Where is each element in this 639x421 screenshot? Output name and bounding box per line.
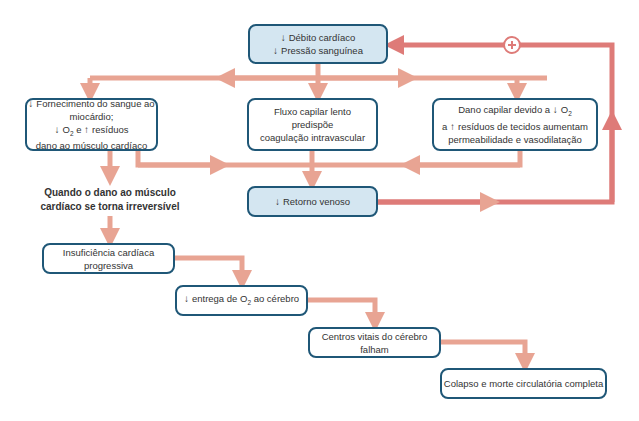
down-arrow-icon: ↓	[281, 32, 286, 43]
o2-subscript: 2	[70, 129, 74, 136]
note-line-2: cardíaco se torna irreversível	[40, 200, 180, 214]
cardiac-output-label: Débito cardíaco	[289, 32, 356, 43]
heart-failure-label: Insuficiência cardíaca progressiva	[44, 246, 173, 272]
a-label: a	[442, 121, 447, 132]
o2-label: O	[62, 124, 69, 135]
down-arrow-icon: ↓	[184, 293, 189, 304]
up-arrow-icon: ↑	[84, 124, 89, 135]
brain-failure-box: Centros vitais do cérebro falham	[308, 327, 441, 358]
o2-delivery-label: entrega de O	[192, 293, 247, 304]
down-arrow-icon: ↓	[553, 104, 558, 115]
note-line-1: Quando o dano ao músculo	[40, 186, 180, 200]
and-label: e	[76, 124, 81, 135]
predispose-label: predispõe	[292, 118, 334, 131]
capillary-flow-label: Fluxo capilar lento	[274, 105, 351, 118]
capillary-flow-box: Fluxo capilar lento predispõe coagulação…	[247, 98, 378, 151]
plus-icon	[504, 37, 520, 53]
brain-failure-label: Centros vitais do cérebro falham	[310, 330, 439, 356]
capillary-damage-label: Dano capilar devido a	[458, 104, 550, 115]
residues-label: resíduos	[92, 124, 128, 135]
o2-subscript: 2	[247, 299, 251, 306]
heart-failure-box: Insuficiência cardíaca progressiva	[42, 243, 175, 274]
o2-delivery-box: ↓entrega de O2 ao cérebro	[175, 285, 308, 316]
cardiac-output-box: ↓Débito cardíaco ↓Pressão sanguínea	[248, 24, 388, 64]
collapse-label: Colapso e morte circulatória completa	[444, 377, 603, 390]
venous-return-box: ↓Retorno venoso	[247, 186, 378, 217]
down-arrow-icon: ↓	[28, 98, 33, 109]
muscle-damage-label: dano ao músculo cardíaco	[36, 139, 147, 152]
down-arrow-icon: ↓	[273, 45, 278, 56]
capillary-damage-box: Dano capilar devido a ↓O2 a ↑resíduos de…	[432, 98, 598, 151]
venous-return-label: Retorno venoso	[283, 196, 350, 207]
up-arrow-icon: ↑	[450, 121, 455, 132]
supply-label: Fornecimento do sangue ao miocárdio;	[36, 98, 154, 122]
myocardium-supply-box: ↓Fornecimento do sangue ao miocárdio; ↓O…	[25, 98, 158, 151]
tissue-residues-label: resíduos de tecidos aumentam	[458, 121, 588, 132]
o2-subscript: 2	[568, 110, 572, 117]
down-arrow-icon: ↓	[275, 196, 280, 207]
irreversible-damage-note: Quando o dano ao músculo cardíaco se tor…	[40, 186, 180, 214]
permeability-label: permeabilidade e vasodilatação	[448, 133, 582, 146]
collapse-box: Colapso e morte circulatória completa	[440, 368, 607, 399]
blood-pressure-label: Pressão sanguínea	[281, 45, 363, 56]
coagulation-label: coagulação intravascular	[260, 131, 365, 144]
down-arrow-icon: ↓	[54, 124, 59, 135]
to-brain-label: ao cérebro	[254, 293, 299, 304]
